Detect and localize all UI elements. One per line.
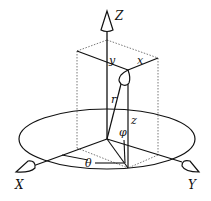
y-axis-label: Y [188,178,197,192]
phi-line [124,140,125,163]
z-coord-label: z [130,114,137,127]
z-arrow-icon [101,11,113,32]
y-coord-label: y [108,54,116,67]
theta-label: θ [85,157,92,170]
x-coord-label: x [137,54,144,67]
phi-label: φ [119,126,127,139]
point-marker-icon [119,70,130,85]
x-axis [33,139,107,166]
z-axis-label: Z [114,9,124,23]
coordinate-diagram: Z X Y y x r z φ θ [0,0,211,201]
x-arrow-icon [16,161,35,172]
top-edges [77,51,158,70]
r-label: r [111,93,117,106]
dotted-box [77,40,158,168]
y-axis [107,139,182,162]
y-arrow-icon [182,161,199,172]
x-axis-label: X [14,178,24,192]
